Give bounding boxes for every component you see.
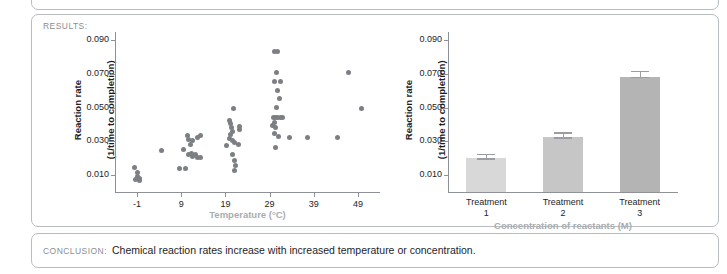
bar-category-label-1: Treatment1 xyxy=(446,197,526,219)
error-bar-cap-bottom-1 xyxy=(477,158,495,160)
error-bar-cap-bottom-2 xyxy=(554,137,572,139)
conclusion-label: CONCLUSION: xyxy=(43,246,107,256)
bar-3[interactable] xyxy=(620,77,660,192)
bar-y-axis-line xyxy=(448,32,449,192)
scatter-y-tick-label: 0.010 xyxy=(69,169,109,179)
bar-2[interactable] xyxy=(543,137,583,192)
scatter-point xyxy=(190,154,195,159)
bar-y-tick-label: 0.090 xyxy=(402,34,442,44)
scatter-y-tick-label: 0.030 xyxy=(69,135,109,145)
figure-root: RESULTS: Reaction rate (1/time to comple… xyxy=(0,0,727,274)
bar-y-tick xyxy=(444,74,448,75)
scatter-point xyxy=(177,166,182,171)
scatter-point xyxy=(272,79,277,84)
scatter-point xyxy=(159,148,164,153)
scatter-x-axis-line xyxy=(115,192,380,193)
scatter-point xyxy=(276,134,281,139)
scatter-y-tick xyxy=(111,108,115,109)
scatter-x-tick-label: -1 xyxy=(117,199,157,209)
scatter-x-tick-label: 29 xyxy=(250,199,290,209)
scatter-y-tick xyxy=(111,74,115,75)
scatter-point xyxy=(237,127,242,132)
error-bar-cap-top-1 xyxy=(477,154,495,156)
scatter-point xyxy=(275,49,280,54)
scatter-x-tick-label: 49 xyxy=(338,199,378,209)
scatter-point xyxy=(273,145,278,150)
scatter-point xyxy=(181,147,186,152)
conclusion-row: CONCLUSION: Chemical reaction rates incr… xyxy=(43,244,476,256)
scatter-x-tick-label: 39 xyxy=(294,199,334,209)
bar-y-tick-label: 0.030 xyxy=(402,135,442,145)
scatter-point xyxy=(183,166,188,171)
bar-category-label-line1-2: Treatment xyxy=(543,197,584,207)
scatter-y-tick-label: 0.050 xyxy=(69,102,109,112)
bar-x-axis-line xyxy=(448,192,678,193)
scatter-x-axis-title: Temperature (°C) xyxy=(115,209,380,220)
scatter-y-tick xyxy=(111,175,115,176)
scatter-x-tick-label: 19 xyxy=(205,199,245,209)
scatter-point xyxy=(346,70,351,75)
error-bar-cap-top-3 xyxy=(631,71,649,73)
scatter-point xyxy=(274,70,279,75)
bar-y-tick xyxy=(444,141,448,142)
scatter-point xyxy=(224,143,229,148)
scatter-point xyxy=(137,178,142,183)
bar-y-tick xyxy=(444,175,448,176)
scatter-point xyxy=(278,79,283,84)
scatter-point xyxy=(236,142,241,147)
scatter-x-tick xyxy=(270,193,271,197)
scatter-x-tick-label: 9 xyxy=(161,199,201,209)
bar-category-label-3: Treatment3 xyxy=(600,197,680,219)
panel-above-partial xyxy=(31,0,719,10)
bar-plot-area xyxy=(448,32,678,192)
scatter-point xyxy=(335,135,340,140)
bar-category-label-line1-3: Treatment xyxy=(619,197,660,207)
scatter-point xyxy=(233,163,238,168)
scatter-point xyxy=(230,152,235,157)
scatter-point xyxy=(232,168,237,173)
scatter-point xyxy=(198,133,203,138)
bar-y-tick-label: 0.010 xyxy=(402,169,442,179)
scatter-x-tick xyxy=(181,193,182,197)
bar-category-label-2: Treatment2 xyxy=(523,197,603,219)
scatter-point xyxy=(277,96,282,101)
scatter-point xyxy=(359,106,364,111)
bar-y-tick-label: 0.050 xyxy=(402,102,442,112)
scatter-y-tick-label: 0.070 xyxy=(69,68,109,78)
scatter-point xyxy=(198,155,203,160)
bar-y-tick xyxy=(444,108,448,109)
scatter-point xyxy=(231,106,236,111)
bar-category-label-line2-3: 3 xyxy=(637,208,642,218)
bar-x-axis-title: Concentration of reactants (M) xyxy=(448,220,678,231)
scatter-point xyxy=(272,120,277,125)
scatter-point xyxy=(275,88,280,93)
scatter-chart-temperature: Reaction rate (1/time to completion) Tem… xyxy=(55,24,400,224)
scatter-y-tick xyxy=(111,141,115,142)
bar-y-tick-label: 0.070 xyxy=(402,68,442,78)
bar-category-label-line2-2: 2 xyxy=(560,208,565,218)
scatter-plot-area xyxy=(115,32,380,192)
scatter-point xyxy=(287,135,292,140)
scatter-x-tick xyxy=(225,193,226,197)
scatter-y-tick-label: 0.090 xyxy=(69,34,109,44)
error-bar-cap-bottom-3 xyxy=(631,77,649,79)
scatter-y-axis-line xyxy=(115,32,116,192)
scatter-y-tick xyxy=(111,40,115,41)
bar-category-label-line2-1: 1 xyxy=(484,208,489,218)
scatter-point xyxy=(274,105,279,110)
bar-1[interactable] xyxy=(466,158,506,192)
error-bar-cap-top-2 xyxy=(554,132,572,134)
scatter-point xyxy=(280,115,285,120)
scatter-point xyxy=(305,135,310,140)
bar-chart-concentration: Reaction rate (1/time to completion) Con… xyxy=(386,24,706,224)
scatter-x-tick xyxy=(137,193,138,197)
bar-category-label-line1-1: Treatment xyxy=(466,197,507,207)
scatter-x-tick xyxy=(358,193,359,197)
conclusion-text: Chemical reaction rates increase with in… xyxy=(112,244,476,256)
bar-y-tick xyxy=(444,40,448,41)
scatter-point xyxy=(273,125,278,130)
scatter-x-tick xyxy=(314,193,315,197)
